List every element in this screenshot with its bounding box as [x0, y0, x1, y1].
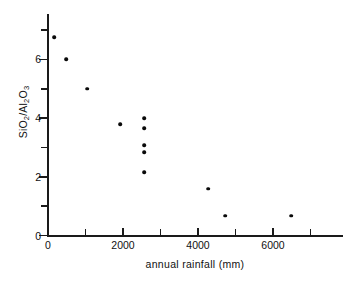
- y-axis-tick-minor: [41, 147, 48, 149]
- x-axis-tick-minor: [235, 229, 237, 236]
- y-axis-tick-minor: [41, 29, 48, 31]
- data-point: [52, 36, 56, 40]
- data-point: [143, 144, 147, 148]
- y-axis-title-sub-1: 2: [22, 116, 31, 120]
- x-axis-tick-major: [122, 228, 124, 236]
- y-axis-line: [47, 14, 49, 236]
- y-axis-title: SiO2/Al2O3: [17, 42, 29, 182]
- data-point: [64, 58, 68, 62]
- data-point: [143, 151, 147, 155]
- plot-area: 0246 0200040006000 annual rainfall (mm) …: [0, 0, 357, 283]
- y-axis-tick-label: 6: [35, 54, 41, 65]
- y-axis-title-sub-2: 2: [22, 98, 31, 102]
- x-axis-tick-major: [197, 228, 199, 236]
- y-axis-tick-label: 0: [35, 231, 41, 242]
- x-axis-tick-major: [272, 228, 274, 236]
- scatter-chart-figure: 0246 0200040006000 annual rainfall (mm) …: [0, 0, 357, 283]
- data-point: [85, 87, 89, 91]
- data-point: [143, 127, 147, 131]
- x-axis-tick-minor: [160, 229, 162, 236]
- y-axis-tick-minor: [41, 205, 48, 207]
- x-axis-tick-major: [47, 228, 49, 236]
- y-axis-tick-label: 4: [35, 113, 41, 124]
- data-point: [119, 122, 123, 126]
- x-axis-tick-label: 0: [45, 240, 51, 251]
- x-axis-tick-label: 2000: [111, 240, 134, 251]
- y-axis-tick-label: 2: [35, 172, 41, 183]
- x-axis-tick-label: 4000: [186, 240, 209, 251]
- data-point: [143, 171, 147, 175]
- y-axis-title-sub-3: 3: [22, 86, 31, 90]
- x-axis-title: annual rainfall (mm): [47, 258, 343, 270]
- data-point: [143, 117, 147, 121]
- x-axis-tick-label: 6000: [261, 240, 284, 251]
- y-axis-tick-minor: [41, 88, 48, 90]
- x-axis-tick-minor: [85, 229, 87, 236]
- data-point: [224, 214, 228, 218]
- x-axis-tick-minor: [310, 229, 312, 236]
- x-axis-line: [47, 235, 343, 237]
- data-point: [206, 187, 210, 191]
- y-axis-title-silica: SiO: [17, 120, 29, 138]
- y-axis-title-alumina: /Al: [17, 103, 29, 116]
- data-point: [289, 214, 293, 218]
